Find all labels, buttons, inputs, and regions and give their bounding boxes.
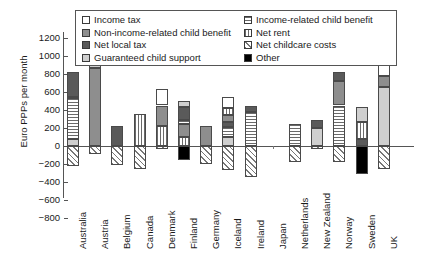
bar-segment [67,146,79,166]
bar-segment [67,72,79,97]
bar-segment [378,146,390,169]
y-tick: 400 [0,105,60,114]
bar-segment [200,146,212,164]
legend-label: Net rent [256,28,290,38]
y-tick-label: 1000 [39,51,60,60]
chart-root: Euro PPPs per month 12001000800600400200… [0,0,423,254]
x-axis-label-japan: Japan [277,223,288,249]
y-tick-label: 400 [44,105,60,114]
x-axis-label-netherlands: Netherlands [299,198,310,249]
legend-swatch-icon [82,16,90,24]
legend-item[interactable]: Net local tax [82,39,231,52]
x-axis-label-canada: Canada [144,216,155,249]
bar-segment [67,97,79,99]
x-axis-label-austria: Austria [99,219,110,249]
bar-segment [222,127,234,136]
legend-label: Non-income-related child benefit [94,28,231,38]
bar-segment [333,106,345,147]
bar-segment [178,107,190,121]
bar-segment [311,120,323,128]
bar-segment [289,146,301,162]
bar-segment [333,72,345,81]
legend-swatch-icon [244,41,252,49]
bar-segment [245,106,257,113]
bar-segment [156,126,168,146]
legend-item[interactable]: Net rent [244,27,373,40]
bar-segment [222,97,234,108]
bar-segment [156,146,168,149]
legend-label: Net local tax [94,40,146,50]
legend-item[interactable]: Guaranteed child support [82,52,231,65]
legend-column-left: Income taxNon-income-related child benef… [82,14,231,64]
bar-segment [222,115,234,122]
legend-item[interactable]: Non-income-related child benefit [82,27,231,40]
bar-segment [134,114,146,146]
bar-segment [378,87,390,146]
bar-segment [200,126,212,146]
legend-label: Other [256,53,280,63]
x-axis-label-norway: Norway [343,217,354,249]
bar-segment [178,101,190,106]
y-tick: 0 [0,141,60,150]
bar-segment [245,112,257,146]
legend-swatch-icon [244,54,252,62]
y-tick-label: 0 [55,141,60,150]
bar-segment [178,146,190,160]
x-axis-label-germany: Germany [210,210,221,249]
bar-segment [67,139,79,146]
bar-segment [333,146,345,162]
bar-segment [178,124,190,136]
y-tick-label: 200 [44,123,60,132]
bar-segment [245,146,257,177]
x-axis-label-australia: Australia [77,212,88,249]
bar-segment [289,124,301,146]
y-tick-label: −200 [39,159,60,168]
y-tick: 200 [0,123,60,132]
legend-item[interactable]: Income-related child benefit [244,14,373,27]
y-tick: −200 [0,159,60,168]
bar-segment [134,146,146,169]
bar-segment [222,108,234,115]
x-axis-label-belgium: Belgium [121,215,132,249]
bar-segment [89,68,101,146]
legend-item[interactable]: Income tax [82,14,231,27]
x-axis-label-uk: UK [388,236,399,249]
legend-swatch-icon [82,54,90,62]
bar-segment [356,146,368,174]
legend-item[interactable]: Other [244,52,373,65]
legend-label: Income-related child benefit [256,15,373,25]
legend-swatch-icon [82,29,90,37]
legend-label: Net childcare costs [256,40,336,50]
legend-swatch-icon [244,29,252,37]
y-tick: 1000 [0,51,60,60]
bar-segment [378,76,390,87]
y-tick: −400 [0,177,60,186]
x-axis-label-denmark: Denmark [166,210,177,249]
bar-segment [311,146,323,149]
y-tick: 800 [0,69,60,78]
legend-label: Guaranteed child support [94,53,201,63]
bar-segment [356,107,368,122]
bar-segment [156,106,168,126]
bar-segment [356,122,368,140]
bar-segment [89,146,101,154]
legend-column-right: Income-related child benefitNet rentNet … [244,14,373,64]
legend-label: Income tax [94,15,140,25]
y-tick-label: 600 [44,87,60,96]
chart-legend: Income taxNon-income-related child benef… [75,10,397,66]
x-axis-label-finland: Finland [188,218,199,249]
bar-segment [111,146,123,165]
bar-segment [333,81,345,105]
x-axis-label-iceland: Iceland [232,218,243,249]
y-axis-title: Euro PPPs per month [18,27,29,177]
bar-segment [178,120,190,124]
y-tick: −800 [0,213,60,222]
bar-segment [178,137,190,146]
y-tick: −600 [0,195,60,204]
legend-swatch-icon [244,16,252,24]
bar-segment [156,89,168,105]
legend-item[interactable]: Net childcare costs [244,39,373,52]
x-axis-label-new-zealand: New Zealand [321,193,332,249]
bar-segment [222,146,234,170]
y-tick: 600 [0,87,60,96]
